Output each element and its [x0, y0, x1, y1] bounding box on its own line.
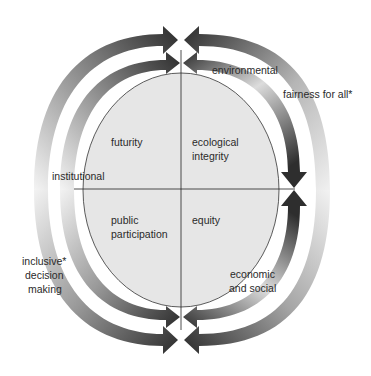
label-environmental: environmental — [212, 64, 278, 76]
label-public: public — [111, 214, 138, 226]
label-participation: participation — [111, 228, 168, 240]
label-economic: economic — [230, 268, 275, 280]
label-institutional: institutional — [52, 170, 105, 182]
label-inclusive: inclusive* — [22, 255, 66, 267]
label-decision: decision — [25, 269, 64, 281]
label-ecological: ecological — [192, 136, 239, 148]
label-equity: equity — [192, 214, 221, 226]
label-and-social: and social — [229, 282, 276, 294]
label-making: making — [28, 283, 62, 295]
label-futurity: futurity — [111, 136, 143, 148]
label-fairness-for-all: fairness for all* — [283, 88, 352, 100]
sustainability-diagram: futurity ecological integrity public par… — [0, 0, 371, 376]
label-integrity: integrity — [192, 150, 230, 162]
